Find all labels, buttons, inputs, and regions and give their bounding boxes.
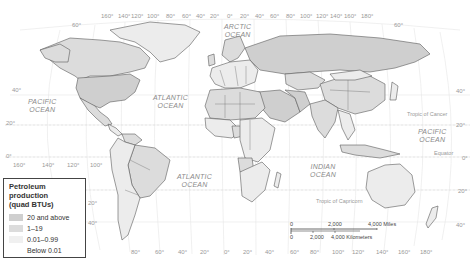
longitude-label: 80° xyxy=(310,249,319,255)
longitude-label: 60° xyxy=(155,249,164,255)
legend-swatch xyxy=(9,225,23,232)
longitude-label: 20° xyxy=(200,249,209,255)
ocean-label-line: OCEAN xyxy=(310,171,336,179)
scale-miles-mid: 2,000 xyxy=(328,221,342,227)
longitude-label: 0° xyxy=(224,249,230,255)
legend-title: Petroleum production (quad BTUs) xyxy=(9,182,80,209)
new-zealand xyxy=(426,206,438,228)
longitude-label: 160° xyxy=(101,13,113,19)
latitude-label: 0° xyxy=(6,153,12,159)
ocean-label-atlantic-north: ATLANTIC OCEAN xyxy=(153,94,188,110)
longitude-label: 120° xyxy=(67,162,79,168)
europe xyxy=(210,60,258,88)
latitude-label: 20° xyxy=(6,120,15,126)
latitude-label: 60° xyxy=(394,22,403,28)
legend-label: 1–19 xyxy=(27,225,43,232)
ocean-label-line: PACIFIC xyxy=(418,128,447,136)
scale-km-mid: 2,000 xyxy=(310,234,324,240)
ocean-label-line: ARCTIC xyxy=(224,23,251,31)
longitude-label: 100° xyxy=(300,13,312,19)
legend-label: 0.01–0.99 xyxy=(27,236,58,243)
longitude-label: 180° xyxy=(361,13,373,19)
longitude-label: 40° xyxy=(178,249,187,255)
ocean-label-line: PACIFIC xyxy=(28,98,57,106)
longitude-label: 100° xyxy=(332,249,344,255)
uk xyxy=(208,54,215,66)
longitude-label: 140° xyxy=(330,13,342,19)
longitude-label: 80° xyxy=(131,249,140,255)
longitude-label: 60° xyxy=(182,13,191,19)
longitude-label: 160° xyxy=(398,249,410,255)
latitude-label: 20° xyxy=(456,122,465,128)
longitude-label: 160° xyxy=(13,162,25,168)
latitude-label: 40° xyxy=(456,222,465,228)
longitude-label: 40° xyxy=(196,13,205,19)
ocean-label-pacific-west: PACIFIC OCEAN xyxy=(28,98,57,114)
longitude-label: 140° xyxy=(42,162,54,168)
legend-swatch xyxy=(9,247,23,254)
kazakhstan xyxy=(285,72,325,90)
central-america xyxy=(108,124,122,136)
longitude-label: 120° xyxy=(352,249,364,255)
ocean-label-line: OCEAN xyxy=(418,136,447,144)
scale-miles-end: 4,000 Miles xyxy=(368,221,396,227)
madagascar xyxy=(274,172,281,188)
longitude-label: 140° xyxy=(376,249,388,255)
longitude-label: 120° xyxy=(316,13,328,19)
legend-item: Below 0.01 xyxy=(9,245,80,256)
ocean-label-line: OCEAN xyxy=(177,181,212,189)
legend-title-line: (quad BTUs) xyxy=(9,200,80,209)
ocean-label-line: INDIAN xyxy=(310,163,336,171)
longitude-label: 40° xyxy=(265,249,274,255)
indonesia xyxy=(340,145,400,158)
legend-title-line: Petroleum production xyxy=(9,182,80,200)
ocean-label-line: ATLANTIC xyxy=(153,94,188,102)
scale-km-start: 0 xyxy=(290,234,293,240)
equator-label: Equator xyxy=(434,150,453,156)
japan xyxy=(390,82,398,100)
longitude-label: 20° xyxy=(210,13,219,19)
legend-item: 1–19 xyxy=(9,223,80,234)
latitude-label: 40° xyxy=(88,220,97,226)
latitude-label: 40° xyxy=(12,87,21,93)
longitude-label: 0° xyxy=(227,13,233,19)
ocean-label-indian: INDIAN OCEAN xyxy=(310,163,336,179)
latitude-label: 60° xyxy=(72,22,81,28)
longitude-label: 180° xyxy=(420,249,432,255)
legend-label: Below 0.01 xyxy=(27,247,62,254)
longitude-label: 100° xyxy=(147,13,159,19)
tropic-of-cancer-label: Tropic of Cancer xyxy=(407,111,447,117)
legend-swatch xyxy=(9,236,23,243)
longitude-label: 120° xyxy=(131,13,143,19)
longitude-label: 140° xyxy=(118,13,130,19)
legend-item: 20 and above xyxy=(9,212,80,223)
ocean-label-atlantic-south: ATLANTIC OCEAN xyxy=(177,173,212,189)
australia xyxy=(366,164,415,208)
ocean-label-line: OCEAN xyxy=(224,31,251,39)
ocean-label-arctic: ARCTIC OCEAN xyxy=(224,23,251,39)
scale-km-end: 4,000 Kilometers xyxy=(331,234,372,240)
longitude-label: 60° xyxy=(290,249,299,255)
scale-bar: 0 2,000 4,000 Miles 0 2,000 4,000 Kilome… xyxy=(290,221,420,247)
ocean-label-line: ATLANTIC xyxy=(177,173,212,181)
legend-label: 20 and above xyxy=(27,214,69,221)
longitude-label: 20° xyxy=(240,13,249,19)
ocean-label-line: OCEAN xyxy=(28,106,57,114)
latitude-label: 20° xyxy=(458,188,467,194)
tropic-of-capricorn-label: Tropic of Capricorn xyxy=(316,198,363,204)
map-legend: Petroleum production (quad BTUs) 20 and … xyxy=(3,178,86,258)
ocean-label-line: OCEAN xyxy=(153,102,188,110)
india xyxy=(310,100,338,138)
longitude-label: 20° xyxy=(243,249,252,255)
latitude-label: 0° xyxy=(462,155,468,161)
longitude-label: 80° xyxy=(166,13,175,19)
russia xyxy=(245,34,430,74)
longitude-label: 100° xyxy=(90,162,102,168)
landmasses xyxy=(40,22,438,240)
longitude-label: 80° xyxy=(286,13,295,19)
longitude-label: 40° xyxy=(255,13,264,19)
longitude-label: 160° xyxy=(344,13,356,19)
scale-miles-start: 0 xyxy=(290,221,293,227)
latitude-label: 20° xyxy=(88,200,97,206)
central-africa xyxy=(240,118,275,162)
